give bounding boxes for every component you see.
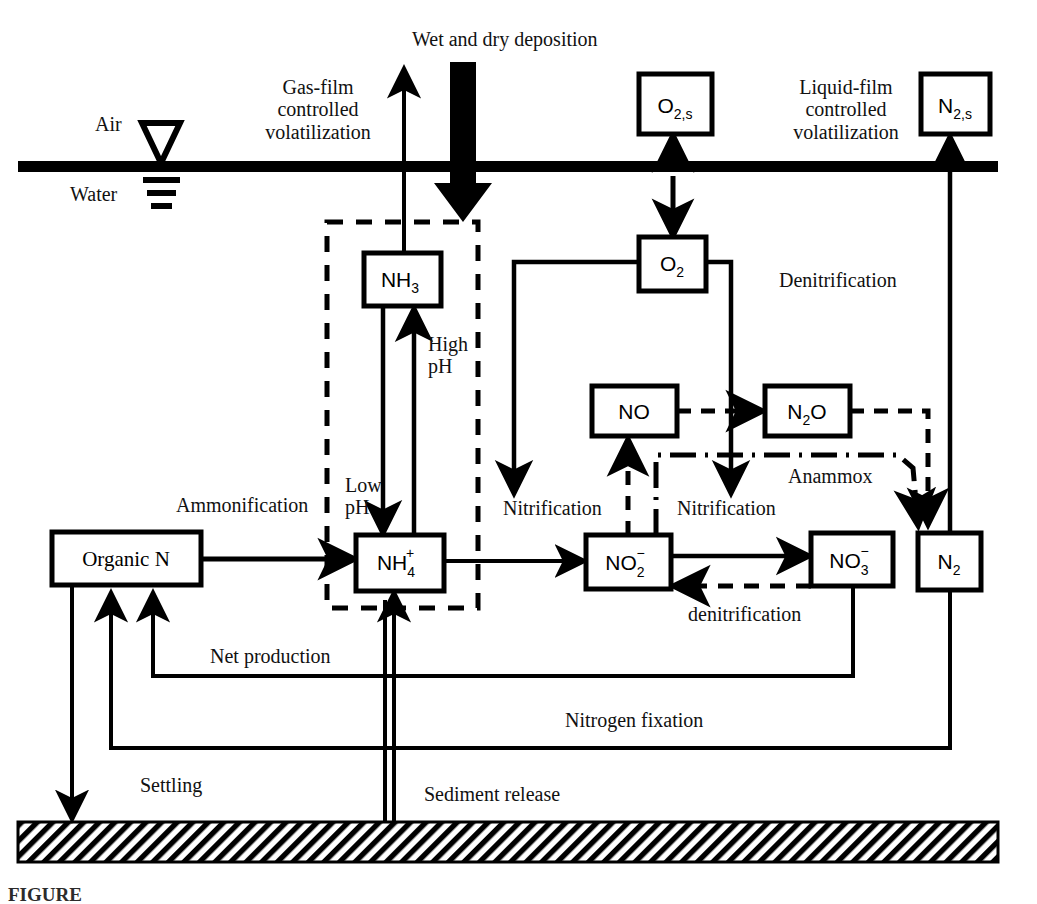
- box-nh3[interactable]: NH3: [364, 253, 441, 306]
- box-n2s[interactable]: N2,s: [921, 74, 990, 134]
- box-no3[interactable]: NO3−: [811, 533, 893, 586]
- box-n2o[interactable]: N2O: [765, 386, 850, 436]
- label-liquid-film-volatilization: Liquid-film controlled volatilization: [775, 76, 917, 143]
- box-nh4[interactable]: NH4+: [356, 535, 444, 591]
- label-water: Water: [70, 183, 117, 205]
- sediment-layer: [18, 822, 998, 862]
- label-net-production: Net production: [210, 645, 331, 667]
- figure-caption: FIGURE: [8, 884, 82, 904]
- label-air: Air: [95, 113, 122, 135]
- nitrogen-cycle-diagram: O2,s N2,s NH3 O2 NO N2O Organic N NH4+ N…: [0, 0, 1037, 904]
- svg-text:NO: NO: [618, 400, 650, 423]
- label-low-ph: Low pH: [345, 474, 382, 519]
- label-denitrification-lower: denitrification: [688, 603, 801, 625]
- anammox-dashdot-line: [656, 455, 918, 535]
- label-anammox: Anammox: [788, 465, 872, 487]
- box-o2[interactable]: O2: [639, 237, 706, 291]
- air-water-interface: [18, 161, 998, 172]
- box-no[interactable]: NO: [592, 386, 677, 436]
- o2-to-nitrification-left-arrow: [514, 262, 639, 492]
- nitrogen-fixation-line: [111, 590, 950, 748]
- box-no2[interactable]: NO2−: [586, 535, 671, 589]
- label-settling: Settling: [140, 774, 202, 796]
- label-denitrification-upper: Denitrification: [779, 269, 897, 291]
- label-nitrification-right: Nitrification: [677, 497, 776, 519]
- label-wet-dry-deposition: Wet and dry deposition: [412, 28, 598, 50]
- box-organic-n[interactable]: Organic N: [52, 532, 201, 585]
- label-ammonification: Ammonification: [176, 494, 308, 516]
- box-o2s[interactable]: O2,s: [639, 74, 712, 134]
- label-nitrification-left: Nitrification: [503, 497, 602, 519]
- label-gas-film-volatilization: Gas-film controlled volatilization: [248, 76, 388, 143]
- label-high-ph: High pH: [428, 333, 468, 378]
- box-n2[interactable]: N2: [918, 533, 981, 590]
- wet-dry-deposition-arrow: [434, 62, 492, 222]
- svg-text:Organic N: Organic N: [82, 547, 170, 571]
- label-nitrogen-fixation: Nitrogen fixation: [565, 709, 703, 731]
- label-sediment-release: Sediment release: [424, 783, 560, 805]
